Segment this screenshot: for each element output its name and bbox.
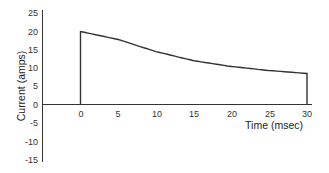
x-axis-title: Time (msec) bbox=[245, 119, 303, 131]
x-tick-0: 0 bbox=[78, 109, 83, 119]
y-tick-20: 20 bbox=[28, 27, 38, 37]
x-tick-25: 25 bbox=[265, 109, 275, 119]
y-tick-neg15: -15 bbox=[25, 155, 38, 165]
y-tick-5: 5 bbox=[33, 81, 38, 91]
y-tick-0: 0 bbox=[33, 100, 38, 110]
x-tick-labels: 0 5 10 15 20 25 30 bbox=[78, 109, 312, 119]
y-tick-neg10: -10 bbox=[25, 137, 38, 147]
current-line bbox=[81, 32, 308, 105]
x-tick-5: 5 bbox=[115, 109, 120, 119]
y-tick-10: 10 bbox=[28, 63, 38, 73]
y-axis-title: Current (amps) bbox=[15, 51, 27, 122]
x-tick-20: 20 bbox=[227, 109, 237, 119]
x-tick-15: 15 bbox=[189, 109, 199, 119]
x-tick-10: 10 bbox=[152, 109, 162, 119]
y-tick-15: 15 bbox=[28, 45, 38, 55]
y-tick-neg5: -5 bbox=[30, 118, 38, 128]
chart: 25 20 15 10 5 0 -5 -10 -15 0 5 10 15 20 … bbox=[0, 0, 329, 173]
x-tick-30: 30 bbox=[302, 109, 312, 119]
y-tick-25: 25 bbox=[28, 8, 38, 18]
